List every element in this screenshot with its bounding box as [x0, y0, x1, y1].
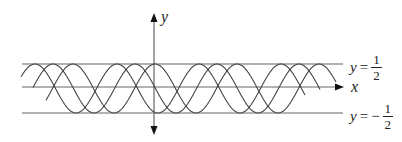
lower-bound-denominator: 2: [385, 117, 392, 131]
upper-bound-numerator: 1: [371, 53, 382, 68]
upper-bound-equals: =: [360, 59, 368, 76]
x-axis-arrow-icon: [335, 84, 344, 91]
wave-curves: [21, 64, 336, 113]
upper-bound-denominator: 2: [373, 68, 380, 82]
y-axis-up-arrow-icon: [151, 13, 158, 22]
wave-curve-2: [33, 64, 320, 113]
wave-curve-3: [46, 64, 336, 113]
lower-bound-fraction: 1 2: [383, 102, 394, 131]
lower-bound-label: y = − 1 2: [350, 102, 393, 131]
lower-bound-sign: −: [371, 108, 379, 125]
lower-bound-equals: =: [360, 108, 368, 125]
upper-bound-label: y = 1 2: [350, 53, 382, 82]
y-axis-label: y: [161, 9, 168, 25]
diagram-canvas: [0, 0, 402, 142]
lower-bound-numerator: 1: [383, 102, 394, 117]
lower-bound-var: y: [350, 108, 357, 125]
y-axis-down-arrow-icon: [151, 126, 158, 135]
upper-bound-fraction: 1 2: [371, 53, 382, 82]
upper-bound-var: y: [350, 59, 357, 76]
